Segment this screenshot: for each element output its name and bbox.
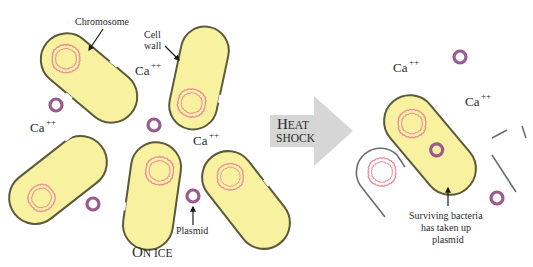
right-panel-after-heat-shock: Ca ++ Ca ++ Surviving bacteria has taken… [356,51,526,245]
plasmid-icon [50,99,62,111]
bacterium-cell [0,125,117,234]
bacterium-cell [165,22,235,134]
lysed-bacterium [356,148,405,217]
chromosome-icon [368,158,396,186]
plasmid-icon [148,119,160,131]
svg-text:Ca: Ca [393,60,408,75]
svg-text:++: ++ [409,57,419,67]
svg-text:Ca: Ca [135,63,150,78]
svg-text:Ca: Ca [465,94,480,109]
bacterium-cell [192,140,301,259]
calcium-label: Ca ++ [193,130,219,148]
calcium-label: Ca ++ [30,117,56,135]
plasmid-icon [87,198,99,210]
left-panel-on-ice: Chromosome Cell wall Ca ++ Ca ++ Ca ++ P… [0,16,301,260]
plasmid-icon [491,192,503,204]
surviving-bacteria-label: Surviving bacteria has taken up plasmid [409,210,483,245]
chromosome-label: Chromosome [75,16,129,27]
svg-text:SHOCK: SHOCK [276,132,316,144]
calcium-label: Ca ++ [465,91,491,109]
svg-text:Surviving bacteria: Surviving bacteria [409,210,483,221]
plasmid-label: Plasmid [176,225,208,236]
svg-text:plasmid: plasmid [432,234,464,245]
svg-text:++: ++ [209,130,219,140]
calcium-label: Ca ++ [135,60,161,78]
calcium-label: Ca ++ [393,57,419,75]
plasmid-icon [187,190,199,202]
svg-text:HEAT: HEAT [277,116,309,132]
svg-text:++: ++ [46,117,56,127]
svg-text:Ca: Ca [30,120,45,135]
heat-shock-diagram: Chromosome Cell wall Ca ++ Ca ++ Ca ++ P… [0,0,533,267]
heat-shock-arrow: HEAT SHOCK [270,96,353,166]
cell-wall-label-line1: Cell [144,29,161,40]
bacterium-cell [119,139,185,253]
svg-text:++: ++ [481,91,491,101]
svg-text:Ca: Ca [193,133,208,148]
cell-wall-label-line2: wall [144,40,161,51]
cell-wall-fragments [492,126,526,192]
plasmid-icon [454,51,466,63]
svg-text:ON ICE: ON ICE [132,244,173,260]
svg-text:has taken up: has taken up [421,222,471,233]
svg-text:++: ++ [151,60,161,70]
on-ice-caption: ON ICE [132,244,173,260]
